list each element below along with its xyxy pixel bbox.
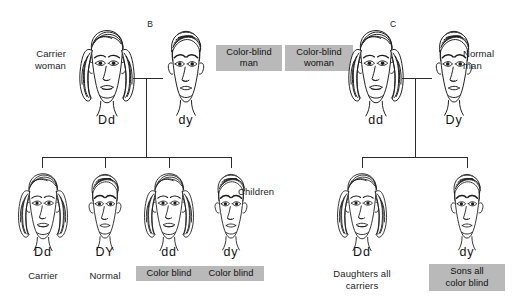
panel-c-descent-line [415,78,416,157]
panel-b-mother-face [68,22,146,123]
panel-c-father-face [415,22,493,123]
panel-b-child-2-status: Normal [75,270,135,282]
panel-b-child-2-genotype: DY [75,245,135,259]
panel-b-mother-genotype: Dd [77,113,137,127]
panel-b-child-3-tag: Color blind [136,266,202,281]
panel-b-child-4-genotype: dy [201,245,261,259]
panel-c-child-2-tag: Sons all color blind [429,264,505,291]
panel-c-mother-genotype: dd [346,113,406,127]
children-row-label: Children [238,186,292,198]
panel-c-father-side-label: Normal man [463,48,517,71]
panel-b-child-1-status: Carrier [13,270,73,282]
panel-c-child-1-face [327,166,397,257]
panel-b-father-face [147,22,225,123]
panel-b-father-tag: Color-blind man [216,45,282,71]
panel-c-child-2-genotype: dy [437,245,497,259]
panel-c-mother-face [337,22,415,123]
panel-c-child-2-face [432,166,502,257]
panel-b-child-2-face [70,166,140,257]
panel-c-marriage-line [402,78,432,79]
panel-c-child-1-status: Daughters all carriers [322,268,402,291]
pedigree-figure: B Carrier woman Dd dy Color-blind man Dd… [0,0,519,307]
panel-c-child-1-genotype: Dd [332,245,392,259]
panel-b-child-3-genotype: dd [139,245,199,259]
panel-b-child-3-face [134,166,204,257]
panel-b-child-1-face [8,166,78,257]
panel-b-child-1-genotype: Dd [13,245,73,259]
panel-b-mother-side-label: Carrier woman [4,48,66,71]
panel-c-father-genotype: Dy [424,113,484,127]
panel-b-father-genotype: dy [156,113,216,127]
panel-b-marriage-line [133,78,163,79]
panel-b-sibship-line [42,157,232,158]
panel-c-sibship-line [362,157,468,158]
panel-b-child-4-tag: Color blind [198,266,264,281]
panel-b-child-4-face [196,166,266,257]
panel-b-descent-line [146,78,147,157]
